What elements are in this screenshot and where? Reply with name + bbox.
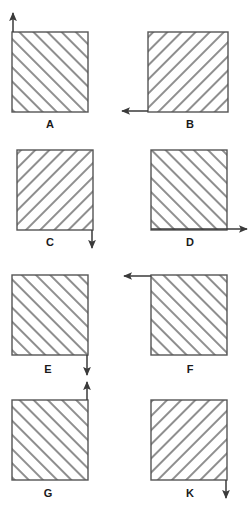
panel-label-e: E: [44, 363, 51, 375]
panel-label-g: G: [44, 487, 53, 499]
hatched-square-e: [12, 275, 88, 355]
hatched-square-c: [17, 150, 93, 230]
panel-label-b: B: [186, 118, 194, 130]
figure-canvas: ABCDEFGK: [0, 0, 251, 510]
hatched-square-g: [12, 400, 88, 480]
hatched-square-f: [151, 275, 227, 355]
hatched-square-a: [12, 32, 88, 112]
panel-label-c: C: [46, 236, 54, 248]
panel-label-d: D: [186, 236, 194, 248]
panel-label-a: A: [46, 118, 54, 130]
hatched-square-k: [151, 400, 227, 480]
hatched-square-b: [148, 32, 228, 112]
hatched-square-d: [151, 150, 227, 230]
hatched-squares-figure: ABCDEFGK: [0, 0, 251, 510]
panel-label-k: K: [186, 487, 194, 499]
panel-label-f: F: [187, 363, 194, 375]
